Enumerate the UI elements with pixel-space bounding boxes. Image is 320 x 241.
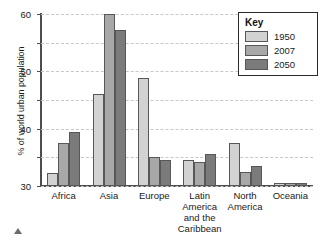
legend-swatch <box>245 59 268 70</box>
bar <box>274 183 285 186</box>
bar <box>229 143 240 186</box>
y-tick-mark: 40 <box>37 71 41 72</box>
legend-entry: 1950 <box>245 31 312 42</box>
legend-entry: 2007 <box>245 45 312 56</box>
bar <box>69 132 80 186</box>
bar <box>47 173 58 186</box>
y-tick-label: 40 <box>20 123 31 134</box>
bar-chart: % of world urban population 010203040506… <box>0 0 320 241</box>
bar <box>194 162 205 186</box>
legend-label: 2050 <box>274 59 295 70</box>
legend-label: 1950 <box>274 31 295 42</box>
gridline <box>41 157 313 158</box>
bar <box>138 78 149 186</box>
legend-swatch <box>245 31 268 42</box>
bar <box>58 143 69 186</box>
x-tick-label: Oceania <box>252 190 320 201</box>
y-tick-mark: 10 <box>37 157 41 158</box>
y-tick-mark: 20 <box>37 129 41 130</box>
y-axis-title: % of world urban population <box>16 11 26 191</box>
y-tick-mark: 60 <box>37 14 41 15</box>
legend-entries: 195020072050 <box>245 31 312 70</box>
bar <box>240 172 251 186</box>
bar <box>160 160 171 186</box>
legend-swatch <box>245 45 268 56</box>
bar <box>296 183 307 186</box>
corner-arrow-icon <box>14 228 22 234</box>
y-tick-mark: 0 <box>37 186 41 187</box>
bar <box>251 166 262 186</box>
bar <box>285 183 296 186</box>
gridline <box>41 129 313 130</box>
legend-label: 2007 <box>274 45 295 56</box>
bar <box>183 160 194 186</box>
legend-entry: 2050 <box>245 59 312 70</box>
gridline <box>41 186 313 187</box>
y-tick-mark: 50 <box>37 43 41 44</box>
bar <box>115 30 126 186</box>
bar <box>149 157 160 186</box>
y-tick-label: 50 <box>20 66 31 77</box>
y-tick-label: 60 <box>20 9 31 20</box>
bar <box>205 154 216 186</box>
bar <box>93 94 104 186</box>
legend-title: Key <box>245 17 312 28</box>
y-tick-mark: 30 <box>37 100 41 101</box>
gridline <box>41 100 313 101</box>
bar <box>104 14 115 186</box>
legend: Key 195020072050 <box>238 12 318 76</box>
